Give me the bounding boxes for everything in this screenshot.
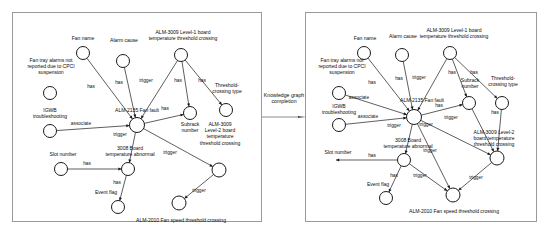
graph-node-alm2010[interactable] <box>172 196 186 210</box>
graph-node-event_flag[interactable] <box>380 192 393 205</box>
edge-label: has <box>107 80 131 86</box>
graph-node-alm3009_l2[interactable] <box>490 151 504 165</box>
edge-label: has <box>360 80 384 86</box>
node-label-alm3009_l1: ALM-3009 Level-1 board temperature thres… <box>123 29 243 41</box>
edge-label: has <box>166 78 190 84</box>
edge-label: has <box>382 173 406 179</box>
graph-node-alarm_cause[interactable] <box>117 55 130 68</box>
transform-label: Knowledge graph completion <box>258 92 310 105</box>
node-label-board3008: 3008 Board temperature abnormal <box>366 137 450 149</box>
graph-node-board3008[interactable] <box>122 163 135 176</box>
graph-node-board3008[interactable] <box>398 154 411 167</box>
edge-label: trigger <box>414 122 438 128</box>
node-label-fan_tray: Fan tray alarms not reported due to CPCI… <box>302 57 382 76</box>
right-arrow-icon <box>262 116 306 118</box>
graph-edge <box>417 124 450 189</box>
node-label-threshold_type: Threshold- crossing type <box>478 75 528 87</box>
node-label-event_flag: Event flag <box>354 181 402 187</box>
graph-edge <box>184 174 213 198</box>
graph-node-fan_tray[interactable] <box>333 87 346 100</box>
graph-edge <box>389 166 401 192</box>
node-label-fan_name: Fan name <box>57 35 109 41</box>
edge-arrow-icon <box>444 188 447 191</box>
edge-arrow-icon <box>336 159 339 162</box>
knowledge-graph-after-panel: hashastriggerhashasassociateassociatehas… <box>305 12 537 222</box>
graph-edge <box>182 61 189 106</box>
node-label-igwb: IGWB troubleshooting <box>305 103 373 115</box>
node-label-event_flag: Event flag <box>82 189 130 195</box>
graph-node-alm3009_l1[interactable] <box>444 47 457 60</box>
edge-label: trigger <box>108 132 132 138</box>
edge-label: has <box>75 161 99 167</box>
edge-label: trigger <box>408 173 432 179</box>
node-label-alm3009_l2: ALM-3009 Level-2 board temperature thres… <box>185 121 255 146</box>
node-label-threshold_type: Threshold- crossing type <box>201 82 253 94</box>
node-label-igwb: IGWB troubleshooting <box>16 107 84 119</box>
graph-node-subrack[interactable] <box>184 107 197 120</box>
graph-node-slot_number[interactable] <box>55 163 68 176</box>
edge-label: associate <box>69 121 93 127</box>
edge-label: trigger <box>439 115 463 121</box>
graph-node-threshold_type[interactable] <box>220 104 233 117</box>
graph-node-alm2135[interactable] <box>130 118 145 133</box>
edge-label: associate <box>347 95 371 101</box>
edge-label: trigger <box>134 78 158 84</box>
figure-canvas: hashastriggerhashasassociatetriggertrigg… <box>0 0 547 232</box>
graph-node-threshold_type[interactable] <box>496 97 509 110</box>
edge-label: has <box>483 110 507 116</box>
graph-edge <box>56 126 129 131</box>
edge-label: trigger <box>464 175 488 181</box>
node-label-alm2010: ALM-2010 Fan speed threshold crossing <box>113 217 249 223</box>
graph-node-igwb[interactable] <box>44 125 57 138</box>
edge-label: has <box>427 103 451 109</box>
edge-label: trigger <box>407 75 431 81</box>
graph-node-igwb[interactable] <box>333 119 346 132</box>
graph-edges-after <box>306 13 536 221</box>
edge-label: trigger <box>187 188 211 194</box>
graph-node-alm2010[interactable] <box>446 188 460 202</box>
node-label-alm3009_l1: ALM-3009 Level-1 board temperature thres… <box>394 27 514 39</box>
graph-node-alarm_cause[interactable] <box>396 49 409 62</box>
graph-node-alm3009_l2[interactable] <box>212 163 226 177</box>
node-label-alm2135: ALM-2135 Fan fault <box>90 107 184 113</box>
graph-node-event_flag[interactable] <box>112 201 125 214</box>
edge-label: has <box>440 70 464 76</box>
edge-label: trigger <box>382 123 406 129</box>
node-label-fan_tray: Fan tray alarms not reported due to CPCI… <box>11 57 91 76</box>
edge-label: has <box>105 180 129 186</box>
knowledge-graph-before-panel: hashastriggerhashasassociatetriggertrigg… <box>12 12 262 222</box>
node-label-alm3009_l2: ALM-3009 Level-2 board temperature thres… <box>458 129 530 148</box>
node-label-alm2010: ALM-2010 Fan speed threshold crossing <box>386 208 522 214</box>
node-label-slot_number: Slot number <box>314 149 362 155</box>
graph-node-fan_tray[interactable] <box>44 87 57 100</box>
edge-arrow-icon <box>129 116 132 119</box>
edge-label: has <box>360 153 384 159</box>
node-label-slot_number: Slot number <box>37 151 89 157</box>
edge-label: has <box>79 84 103 90</box>
node-label-fan_name: Fan name <box>339 35 391 41</box>
graph-node-alm3009_l1[interactable] <box>175 49 188 62</box>
node-label-alm2135: ALM-2135 Fan fault <box>375 97 469 103</box>
node-label-board3008: 3008 Board temperature abnormal <box>88 145 172 157</box>
